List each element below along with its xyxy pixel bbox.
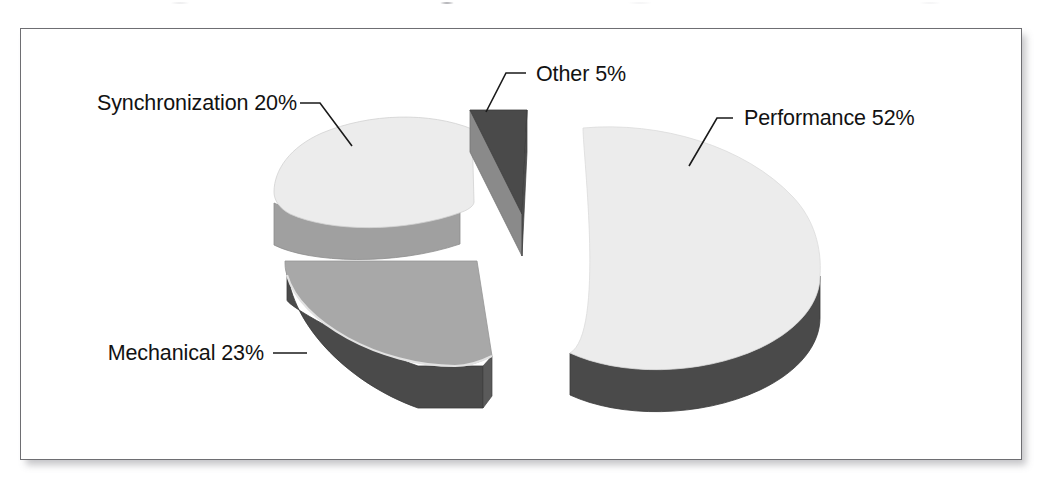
scan-artifact: [0, 0, 1044, 10]
page-root: Synchronization 20% Other 5% Performance…: [0, 0, 1044, 487]
figure-frame: [20, 28, 1022, 460]
